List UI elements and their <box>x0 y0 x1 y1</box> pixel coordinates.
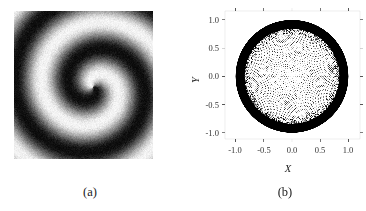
y-tick-label: -1.0 <box>193 128 219 138</box>
two-panel-figure: (a) 1.0 0.5 0.0 -0.5 -1.0 -1.0 -0.5 0.0 … <box>0 0 366 211</box>
panel-a-label: (a) <box>60 185 120 200</box>
panel-b-label: (b) <box>255 185 315 200</box>
y-tick-label: 1.0 <box>193 15 219 25</box>
y-axis-label: Y <box>190 77 201 83</box>
y-tick-label: -0.5 <box>193 100 219 110</box>
x-tick-label: 1.0 <box>335 145 361 155</box>
x-tick-label: -1.0 <box>222 145 248 155</box>
x-axis-label: X <box>258 163 318 174</box>
x-tick-label: 0.5 <box>307 145 333 155</box>
x-tick-label: 0.0 <box>279 145 305 155</box>
x-tick-label: -0.5 <box>251 145 277 155</box>
y-tick-label: 0.5 <box>193 43 219 53</box>
spiral-wave-image <box>14 11 153 159</box>
